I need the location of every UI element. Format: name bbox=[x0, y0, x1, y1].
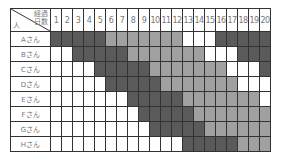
day-cell bbox=[117, 122, 128, 137]
day-cell bbox=[73, 77, 84, 92]
day-cell bbox=[238, 77, 249, 92]
day-cell bbox=[128, 137, 139, 152]
day-cell bbox=[128, 122, 139, 137]
day-cell bbox=[238, 92, 249, 107]
day-cell bbox=[84, 137, 95, 152]
day-cell bbox=[73, 92, 84, 107]
person-row: Hさん bbox=[11, 137, 271, 152]
day-header-9: 9 bbox=[139, 9, 150, 32]
day-cell bbox=[172, 92, 183, 107]
schedule-grid: 経過 日数 人 1234567891011121314151617181920 … bbox=[10, 8, 271, 152]
day-header-16: 16 bbox=[216, 9, 227, 32]
day-cell bbox=[51, 32, 62, 47]
day-cell bbox=[216, 32, 227, 47]
day-cell bbox=[73, 32, 84, 47]
day-cell bbox=[139, 92, 150, 107]
day-cell bbox=[194, 107, 205, 122]
day-cell bbox=[150, 122, 161, 137]
person-name: Dさん bbox=[11, 77, 51, 92]
day-cell bbox=[150, 77, 161, 92]
day-cell bbox=[260, 62, 271, 77]
person-name: Fさん bbox=[11, 107, 51, 122]
day-cell bbox=[216, 77, 227, 92]
day-cell bbox=[238, 137, 249, 152]
day-cell bbox=[227, 107, 238, 122]
day-cell bbox=[249, 137, 260, 152]
person-row: Fさん bbox=[11, 107, 271, 122]
day-cell bbox=[117, 77, 128, 92]
day-cell bbox=[216, 47, 227, 62]
day-cell bbox=[205, 62, 216, 77]
day-cell bbox=[62, 92, 73, 107]
day-cell bbox=[128, 92, 139, 107]
day-cell bbox=[117, 107, 128, 122]
day-cell bbox=[117, 137, 128, 152]
header-row: 経過 日数 人 1234567891011121314151617181920 bbox=[11, 9, 271, 32]
day-cell bbox=[62, 122, 73, 137]
day-cell bbox=[139, 32, 150, 47]
day-header-14: 14 bbox=[194, 9, 205, 32]
person-row: Bさん bbox=[11, 47, 271, 62]
day-cell bbox=[172, 137, 183, 152]
day-cell bbox=[62, 107, 73, 122]
day-cell bbox=[227, 92, 238, 107]
day-cell bbox=[150, 47, 161, 62]
day-cell bbox=[106, 107, 117, 122]
day-header-5: 5 bbox=[95, 9, 106, 32]
day-cell bbox=[106, 77, 117, 92]
day-cell bbox=[106, 32, 117, 47]
day-cell bbox=[95, 62, 106, 77]
day-cell bbox=[84, 62, 95, 77]
day-cell bbox=[150, 92, 161, 107]
day-cell bbox=[51, 77, 62, 92]
person-row: Dさん bbox=[11, 77, 271, 92]
day-cell bbox=[260, 32, 271, 47]
day-cell bbox=[84, 107, 95, 122]
day-cell bbox=[106, 137, 117, 152]
day-cell bbox=[249, 32, 260, 47]
day-cell bbox=[227, 62, 238, 77]
day-cell bbox=[73, 137, 84, 152]
day-cell bbox=[161, 92, 172, 107]
day-cell bbox=[161, 77, 172, 92]
day-cell bbox=[227, 137, 238, 152]
day-cell bbox=[73, 62, 84, 77]
day-cell bbox=[172, 47, 183, 62]
day-cell bbox=[205, 77, 216, 92]
day-header-6: 6 bbox=[106, 9, 117, 32]
day-cell bbox=[260, 77, 271, 92]
day-cell bbox=[128, 62, 139, 77]
day-header-7: 7 bbox=[117, 9, 128, 32]
day-cell bbox=[95, 107, 106, 122]
day-cell bbox=[95, 47, 106, 62]
day-cell bbox=[194, 32, 205, 47]
day-cell bbox=[172, 62, 183, 77]
day-header-2: 2 bbox=[62, 9, 73, 32]
day-cell bbox=[62, 32, 73, 47]
day-cell bbox=[227, 77, 238, 92]
day-cell bbox=[238, 47, 249, 62]
day-cell bbox=[106, 92, 117, 107]
day-cell bbox=[183, 47, 194, 62]
day-cell bbox=[51, 107, 62, 122]
day-cell bbox=[183, 122, 194, 137]
day-cell bbox=[183, 62, 194, 77]
day-cell bbox=[205, 137, 216, 152]
day-cell bbox=[161, 47, 172, 62]
day-cell bbox=[183, 137, 194, 152]
day-cell bbox=[139, 137, 150, 152]
day-cell bbox=[139, 77, 150, 92]
day-cell bbox=[172, 122, 183, 137]
day-cell bbox=[73, 47, 84, 62]
day-cell bbox=[84, 122, 95, 137]
corner-header-cell: 経過 日数 人 bbox=[11, 9, 51, 32]
day-cell bbox=[249, 92, 260, 107]
day-cell bbox=[249, 107, 260, 122]
day-cell bbox=[194, 137, 205, 152]
day-cell bbox=[84, 77, 95, 92]
grid-body: AさんBさんCさんDさんEさんFさんGさんHさん bbox=[11, 32, 271, 152]
day-header-13: 13 bbox=[183, 9, 194, 32]
day-cell bbox=[150, 32, 161, 47]
day-cell bbox=[128, 32, 139, 47]
day-cell bbox=[238, 107, 249, 122]
